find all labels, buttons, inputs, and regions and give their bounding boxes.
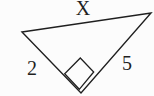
left-side-label: 2 <box>27 57 37 79</box>
geometry-figure: X 2 5 <box>0 0 154 96</box>
right-side-label: 5 <box>122 52 132 74</box>
right-triangle-diagram: X 2 5 <box>0 0 154 96</box>
top-side-label: X <box>76 0 91 19</box>
